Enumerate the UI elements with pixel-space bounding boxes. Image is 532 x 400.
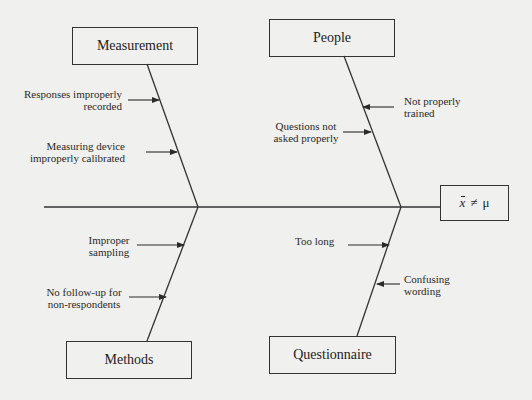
cause-questions-not-asked: Questions not asked properly [270,120,342,144]
cause-not-properly-trained: Not properly trained [404,95,461,119]
effect-expression: x ≠ μ [460,195,490,211]
cause-no-follow-up: No follow-up for non-respondents [42,286,126,310]
category-measurement-box: Measurement [72,27,198,65]
category-people-label: People [313,30,351,46]
cause-confusing-wording: Confusing wording [404,273,450,297]
category-people-box: People [269,19,395,57]
fishbone-diagram: Measurement People Methods Questionnaire… [0,0,532,400]
cause-responses-improperly-recorded: Responses improperly recorded [24,88,122,112]
population-mean-symbol: μ [482,195,489,211]
category-questionnaire-box: Questionnaire [269,336,396,374]
effect-box: x ≠ μ [440,185,509,221]
category-questionnaire-label: Questionnaire [293,347,372,363]
sample-mean-symbol: x [460,195,466,211]
category-measurement-label: Measurement [97,38,173,54]
methods-bone [147,207,198,341]
cause-too-long: Too long [295,235,334,247]
not-equal-symbol: ≠ [470,195,477,211]
questionnaire-bone [357,207,401,336]
category-methods-box: Methods [66,341,192,379]
measurement-bone [147,64,198,207]
cause-improper-sampling: Improper sampling [84,234,134,258]
cause-measuring-device-calibrated: Measuring device improperly calibrated [30,140,125,164]
category-methods-label: Methods [105,352,154,368]
